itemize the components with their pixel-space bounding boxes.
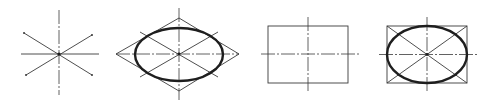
center-point [178, 53, 181, 56]
endpoint-dot [91, 34, 93, 36]
ellipse-construction-diagram [0, 0, 495, 109]
figure-axes-star [21, 10, 99, 95]
figure-rhombus-ellipse [116, 8, 239, 100]
endpoint-dot [25, 74, 27, 76]
center-point [426, 53, 429, 56]
endpoint-dot [91, 74, 93, 76]
center-point [57, 52, 60, 55]
figure-rectangle-ellipse [379, 17, 478, 92]
endpoint-dot [23, 32, 25, 34]
diagram-canvas: Four-step construction of an isometric e… [0, 0, 495, 109]
figure-rectangle-axes [261, 17, 360, 92]
